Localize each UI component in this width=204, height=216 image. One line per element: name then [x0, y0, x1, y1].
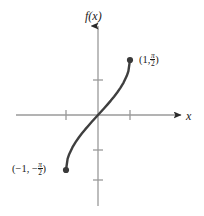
figure-container: f(x) x (1,π2) (−1, −π2) — [0, 0, 204, 216]
point-label-upper-close: ) — [155, 54, 159, 65]
endpoint-marker-lower — [63, 167, 69, 173]
fraction-pi-over-2-lower: π2 — [38, 161, 43, 177]
point-label-lower-close: ) — [43, 163, 47, 174]
y-axis-label: f(x) — [85, 10, 102, 22]
point-label-lower: (−1, −π2) — [12, 161, 46, 177]
point-label-upper: (1,π2) — [139, 52, 159, 68]
graph-canvas — [0, 0, 204, 216]
fraction-pi-over-2-upper: π2 — [150, 52, 155, 68]
fraction-denominator: 2 — [150, 60, 155, 68]
x-axis-label: x — [186, 110, 191, 122]
point-label-lower-open: (−1, − — [12, 163, 38, 174]
point-label-upper-open: (1, — [139, 54, 150, 65]
endpoint-marker-upper — [127, 57, 133, 63]
fraction-denominator: 2 — [38, 169, 43, 177]
